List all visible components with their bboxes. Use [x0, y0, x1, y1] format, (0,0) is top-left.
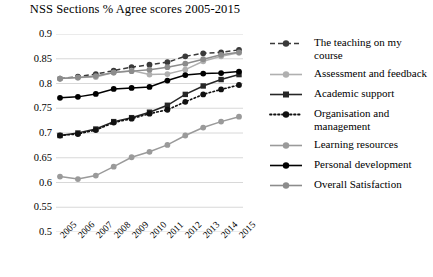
data-point	[200, 56, 206, 62]
data-point	[165, 59, 171, 65]
data-point	[182, 72, 188, 78]
data-point	[147, 62, 153, 68]
legend-label: Academic support	[312, 87, 394, 100]
data-point	[218, 52, 224, 58]
data-point	[236, 49, 242, 55]
data-point	[218, 70, 224, 76]
data-point	[129, 85, 135, 91]
series-line	[60, 117, 239, 179]
y-axis-tick-label: 0.7	[4, 128, 52, 138]
y-axis-tick-label: 0.55	[4, 202, 52, 212]
legend-item: Learning resources	[268, 138, 433, 152]
chart-title: NSS Sections % Agree scores 2005-2015	[0, 2, 270, 17]
data-point	[57, 133, 63, 139]
data-point	[182, 99, 188, 105]
legend-marker-icon	[268, 68, 312, 81]
legend-marker-icon	[268, 139, 312, 152]
data-point	[57, 76, 63, 82]
y-axis-tick-label: 0.65	[4, 153, 52, 163]
data-point	[129, 68, 135, 74]
data-point	[236, 82, 242, 88]
series-academic-support	[57, 72, 241, 138]
data-point	[93, 127, 99, 133]
data-point	[182, 67, 188, 73]
data-point	[147, 84, 153, 90]
data-point	[93, 173, 99, 179]
data-point	[200, 125, 206, 131]
data-point	[200, 71, 206, 77]
data-point	[218, 119, 224, 125]
data-point	[57, 95, 63, 101]
plot-area	[56, 34, 243, 232]
data-point	[111, 120, 117, 126]
data-point	[147, 111, 153, 117]
data-point	[111, 70, 117, 76]
y-axis: 0.90.850.80.750.70.650.60.550.5	[0, 34, 52, 232]
data-point	[182, 53, 188, 59]
data-point	[165, 142, 171, 148]
data-point	[201, 83, 206, 88]
y-axis-tick-label: 0.9	[4, 29, 52, 39]
data-point	[165, 64, 171, 70]
y-axis-tick-label: 0.8	[4, 79, 52, 89]
data-point	[200, 50, 206, 56]
data-point	[183, 92, 188, 97]
data-point	[93, 91, 99, 97]
data-point	[111, 164, 117, 170]
chart-container: NSS Sections % Agree scores 2005-2015 0.…	[0, 0, 433, 277]
legend-label: Learning resources	[312, 138, 398, 151]
data-point	[200, 91, 206, 97]
data-point	[147, 67, 153, 73]
legend-label: Assessment and feedback	[312, 67, 427, 80]
data-point	[129, 116, 135, 122]
data-point	[111, 86, 117, 92]
data-point	[93, 73, 99, 79]
data-point	[236, 114, 242, 120]
legend-marker-icon	[268, 179, 312, 192]
legend-label: Overall Satisfaction	[312, 178, 402, 191]
legend-item: The teaching on my course	[268, 36, 433, 61]
legend-label: Organisation and management	[312, 107, 433, 132]
legend-marker-icon	[268, 88, 312, 101]
data-point	[75, 94, 81, 100]
data-point	[218, 77, 223, 82]
legend-marker-icon	[268, 37, 312, 50]
data-point	[147, 72, 153, 78]
y-axis-tick-label: 0.85	[4, 54, 52, 64]
legend-label: The teaching on my course	[312, 36, 433, 61]
chart-legend: The teaching on my courseAssessment and …	[268, 36, 433, 198]
legend-marker-icon	[268, 108, 312, 121]
plot-svg	[56, 34, 243, 232]
data-point	[165, 71, 171, 77]
data-point	[75, 75, 81, 81]
legend-marker-icon	[268, 159, 312, 172]
data-point	[236, 69, 242, 75]
legend-item: Personal development	[268, 158, 433, 172]
data-point	[165, 78, 171, 84]
y-axis-tick-label: 0.6	[4, 178, 52, 188]
data-point	[182, 61, 188, 67]
data-point	[129, 154, 135, 160]
y-axis-tick-label: 0.5	[4, 227, 52, 237]
y-axis-tick-label: 0.75	[4, 103, 52, 113]
data-point	[147, 149, 153, 155]
series-learning-resources	[57, 114, 242, 182]
x-axis: 2005200620072008200920102011201220132014…	[56, 233, 256, 277]
legend-item: Assessment and feedback	[268, 67, 433, 81]
data-point	[182, 133, 188, 139]
legend-item: Organisation and management	[268, 107, 433, 132]
legend-item: Academic support	[268, 87, 433, 101]
data-point	[75, 131, 81, 137]
data-point	[57, 174, 63, 180]
data-point	[75, 176, 81, 182]
data-point	[218, 87, 224, 93]
legend-item: Overall Satisfaction	[268, 178, 433, 192]
data-point	[165, 107, 171, 113]
legend-label: Personal development	[312, 158, 411, 171]
